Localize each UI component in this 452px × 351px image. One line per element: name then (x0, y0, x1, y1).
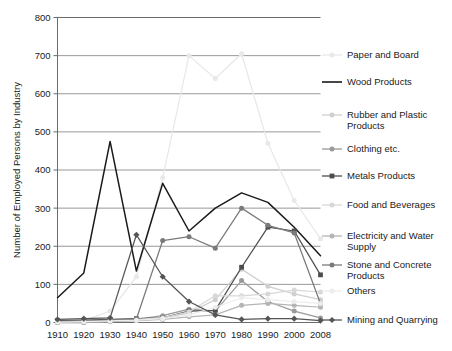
series-stone-and-concrete-products (55, 206, 323, 324)
series-marker (265, 284, 270, 289)
series-marker (265, 291, 270, 296)
series-marker (187, 234, 192, 239)
series-marker (239, 278, 244, 283)
chart-axes (54, 18, 58, 323)
legend-marker (330, 289, 335, 294)
x-tick-label: 1960 (178, 329, 199, 340)
series-marker (187, 53, 192, 58)
x-tick-label: 1980 (231, 329, 252, 340)
legend-marker (329, 317, 335, 323)
series-marker (213, 76, 218, 81)
y-tick-label: 0 (45, 317, 50, 328)
legend-marker (330, 113, 335, 118)
legend-label: Stone and Concrete (347, 259, 432, 270)
series-marker (239, 295, 244, 300)
series-marker (292, 288, 297, 293)
x-tick-label: 1930 (100, 329, 121, 340)
series-line (58, 141, 321, 297)
series-marker (292, 230, 297, 235)
legend-marker (330, 263, 335, 268)
legend-marker (330, 203, 335, 208)
y-tick-label: 100 (35, 279, 51, 290)
series-marker (292, 198, 297, 203)
chart-legend: Paper and BoardWood ProductsRubber and P… (322, 49, 438, 325)
chart-figure: 0100200300400500600700800 19101920193019… (0, 0, 452, 351)
legend-label: Electricity and Water (347, 230, 434, 241)
legend-item-wood-products[interactable]: Wood Products (322, 76, 412, 87)
series-marker (318, 301, 323, 306)
grid-lines (58, 18, 321, 323)
legend-label: Food and Beverages (347, 199, 435, 210)
series-marker (318, 236, 323, 241)
y-tick-label: 300 (35, 203, 51, 214)
series-marker (239, 51, 244, 56)
series-marker (213, 293, 218, 298)
y-tick-label: 400 (35, 164, 51, 175)
series-marker (187, 312, 192, 317)
legend-label: Mining and Quarrying (347, 314, 438, 325)
series-marker (212, 312, 218, 318)
series-marker (292, 309, 297, 314)
x-tick-label: 1990 (257, 329, 278, 340)
legend-label-line2: Supply (347, 241, 376, 252)
x-tick-label: 1970 (205, 329, 226, 340)
series-marker (133, 232, 139, 238)
x-axis-tick-labels: 1910192019301940195019601970198019902000… (47, 329, 331, 340)
y-tick-label: 500 (35, 126, 51, 137)
legend-marker (330, 53, 335, 58)
legend-label-line2: Products (347, 270, 385, 281)
series-marker (292, 299, 297, 304)
y-axis-tick-labels: 0100200300400500600700800 (35, 12, 51, 328)
series-marker (318, 290, 323, 295)
legend-item-food-and-beverages[interactable]: Food and Beverages (322, 199, 435, 210)
series-marker (213, 246, 218, 251)
y-axis-title-text: Number of Employed Persons by Industry (11, 82, 22, 258)
x-tick-label: 1910 (47, 329, 68, 340)
x-tick-label: 2008 (310, 329, 331, 340)
series-marker (265, 223, 270, 228)
legend-item-metals-products[interactable]: Metals Products (322, 170, 415, 181)
line-chart: 0100200300400500600700800 19101920193019… (0, 0, 452, 351)
series-marker (239, 303, 244, 308)
series-marker (160, 175, 165, 180)
y-tick-label: 700 (35, 50, 51, 61)
series-marker (239, 316, 245, 322)
y-tick-label: 800 (35, 12, 51, 23)
legend-label: Metals Products (347, 170, 415, 181)
y-tick-label: 600 (35, 88, 51, 99)
x-tick-label: 1920 (73, 329, 94, 340)
legend-marker (330, 147, 335, 152)
series-marker (318, 272, 323, 277)
legend-item-paper-and-board[interactable]: Paper and Board (322, 49, 419, 60)
legend-label: Others (347, 285, 376, 296)
series-marker (265, 316, 271, 322)
legend-item-others[interactable]: Others (322, 285, 376, 296)
series-marker (239, 206, 244, 211)
series-marker (239, 265, 244, 270)
legend-item-electricity-and-water-supply[interactable]: Electricity and WaterSupply (322, 230, 434, 252)
series-marker (134, 318, 139, 323)
series-marker (134, 274, 139, 279)
legend-marker (330, 174, 335, 179)
series-marker (265, 141, 270, 146)
legend-label: Rubber and Plastic (347, 109, 428, 120)
series-marker (265, 297, 270, 302)
y-axis-title: Number of Employed Persons by Industry (11, 82, 22, 258)
legend-item-stone-and-concrete-products[interactable]: Stone and ConcreteProducts (322, 259, 432, 281)
legend-item-rubber-and-plastic-products[interactable]: Rubber and PlasticProducts (322, 109, 428, 131)
legend-marker (330, 234, 335, 239)
series-marker (213, 305, 218, 310)
x-tick-label: 1950 (152, 329, 173, 340)
series-marker (160, 238, 165, 243)
series-wood-products (58, 141, 321, 297)
series-marker (160, 316, 165, 321)
legend-label: Wood Products (347, 76, 412, 87)
legend-label-line2: Products (347, 120, 385, 131)
legend-label: Paper and Board (347, 49, 419, 60)
series-marker (291, 316, 297, 322)
x-tick-label: 1940 (126, 329, 147, 340)
legend-item-clothing-etc[interactable]: Clothing etc. (322, 143, 400, 154)
y-tick-label: 200 (35, 241, 51, 252)
legend-label: Clothing etc. (347, 143, 400, 154)
legend-item-mining-and-quarrying[interactable]: Mining and Quarrying (322, 314, 438, 325)
